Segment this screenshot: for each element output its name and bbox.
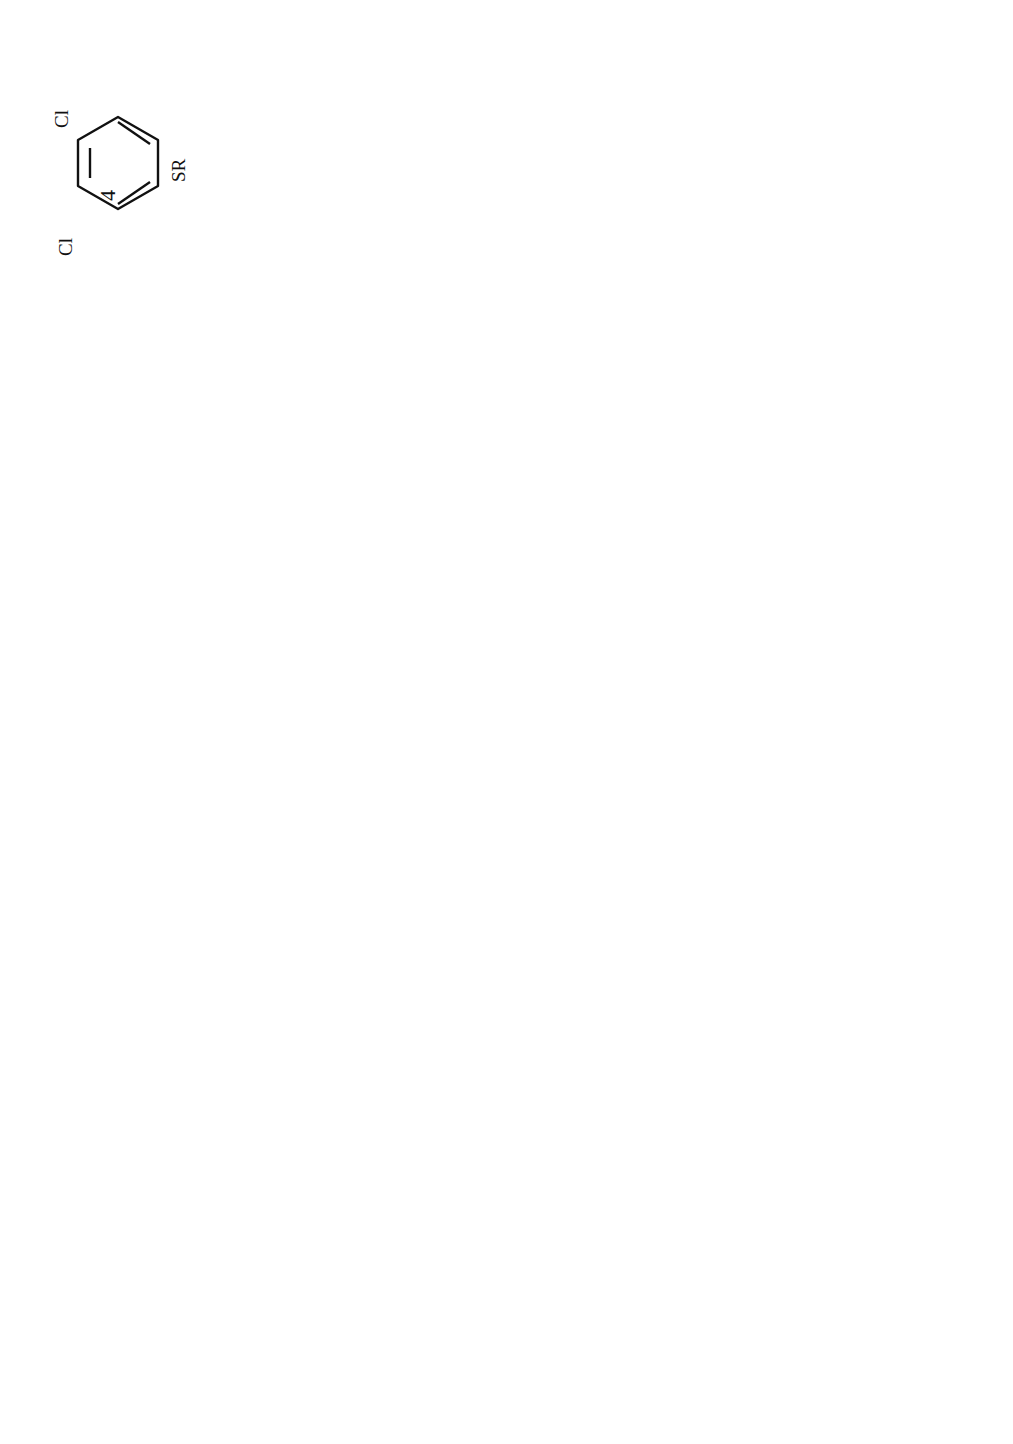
svg-text:SR: SR bbox=[168, 158, 189, 182]
compound-4: Cl Cl SR 4 bbox=[51, 110, 189, 256]
diagram-stage: Cl Cl SR 4 bbox=[0, 0, 1013, 1444]
svg-text:4: 4 bbox=[95, 190, 120, 201]
svg-text:Cl: Cl bbox=[51, 110, 72, 128]
svg-text:Cl: Cl bbox=[55, 238, 76, 256]
figure-page: Cl Cl SR 4 bbox=[0, 0, 1013, 1444]
pathway-diagram: Cl Cl SR 4 bbox=[0, 0, 1013, 1444]
